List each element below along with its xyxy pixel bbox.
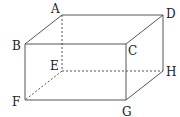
vertex-label-a: A	[50, 2, 60, 16]
edge-ef	[25, 71, 62, 100]
prism-diagram: A B C D E F G H	[0, 0, 180, 117]
vertex-label-b: B	[12, 39, 21, 53]
vertex-label-f: F	[12, 95, 20, 109]
vertex-label-g: G	[122, 105, 132, 117]
edges	[25, 15, 163, 100]
edge-gh	[126, 71, 163, 100]
vertex-label-h: H	[166, 65, 176, 79]
edge-dc	[126, 15, 163, 44]
vertex-label-e: E	[50, 59, 59, 73]
edge-ab	[25, 15, 62, 44]
vertex-label-c: C	[128, 44, 137, 58]
vertex-label-d: D	[166, 7, 176, 21]
